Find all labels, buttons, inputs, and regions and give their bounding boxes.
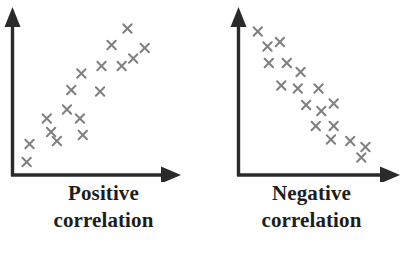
caption-line-2: correlation xyxy=(208,207,415,234)
caption-line-1: Positive xyxy=(0,180,207,207)
data-point-marker xyxy=(96,87,104,95)
data-point-marker xyxy=(107,41,115,49)
data-point-marker xyxy=(76,114,84,122)
data-point-marker xyxy=(294,84,302,92)
data-point-marker xyxy=(141,44,149,52)
data-point-marker xyxy=(77,69,85,77)
y-axis-arrowhead-icon xyxy=(5,7,21,27)
data-point-marker xyxy=(312,122,320,130)
data-point-marker xyxy=(97,62,105,70)
data-point-marker xyxy=(47,128,55,136)
data-point-marker xyxy=(254,27,262,35)
data-point-marker xyxy=(22,158,30,166)
positive-correlation-panel: Positive correlation xyxy=(0,0,207,254)
data-point-marker xyxy=(53,137,61,145)
correlation-figure: Positive correlation Negative correlatio… xyxy=(0,0,415,254)
data-point-marker xyxy=(79,131,87,139)
data-point-marker xyxy=(330,99,338,107)
data-point-marker xyxy=(63,105,71,113)
data-point-marker xyxy=(327,135,335,143)
data-point-marker xyxy=(277,81,285,89)
data-point-marker xyxy=(283,59,291,67)
data-point-marker xyxy=(43,114,51,122)
data-point-marker xyxy=(25,140,33,148)
data-point-marker xyxy=(265,59,273,67)
data-point-marker xyxy=(296,68,304,76)
data-point-marker xyxy=(276,38,284,46)
caption-line-1: Negative xyxy=(208,180,415,207)
negative-correlation-scatter-plot xyxy=(208,0,415,182)
data-point-marker xyxy=(302,101,310,109)
data-point-marker xyxy=(317,107,325,115)
caption-line-2: correlation xyxy=(0,207,207,234)
data-point-group-positive xyxy=(22,24,148,166)
positive-correlation-caption: Positive correlation xyxy=(0,180,207,234)
data-point-marker xyxy=(330,122,338,130)
axes-positive xyxy=(5,7,182,182)
negative-correlation-panel: Negative correlation xyxy=(208,0,415,254)
data-point-marker xyxy=(117,62,125,70)
data-point-marker xyxy=(361,143,369,151)
data-point-marker xyxy=(67,86,75,94)
data-point-marker xyxy=(346,137,354,145)
data-point-group-negative xyxy=(254,27,370,161)
data-point-marker xyxy=(129,54,137,62)
data-point-marker xyxy=(357,153,365,161)
positive-correlation-scatter-plot xyxy=(0,0,207,182)
y-axis-arrowhead-icon xyxy=(231,7,247,27)
data-point-marker xyxy=(263,42,271,50)
negative-correlation-caption: Negative correlation xyxy=(208,180,415,234)
data-point-marker xyxy=(314,84,322,92)
data-point-marker xyxy=(123,24,131,32)
